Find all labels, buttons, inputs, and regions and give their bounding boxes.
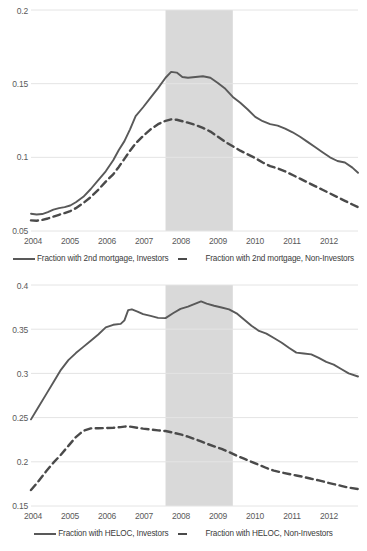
y-tick-label: 0.4 <box>2 281 28 291</box>
x-tick-label: 2008 <box>164 511 198 521</box>
y-tick-label: 0.25 <box>2 413 28 423</box>
x-tick-label: 2011 <box>275 236 309 246</box>
legend-label: Fraction with HELOC, Non-Investors <box>205 529 332 538</box>
dashed-line-swatch-icon <box>178 533 187 535</box>
x-tick-label: 2005 <box>53 511 87 521</box>
y-tick-label: 0.15 <box>2 79 28 89</box>
dashed-line-swatch-icon <box>178 258 187 260</box>
x-tick-label: 2012 <box>312 511 346 521</box>
x-tick-label: 2009 <box>201 236 235 246</box>
y-tick-label: 0.35 <box>2 325 28 335</box>
y-tick-label: 0.2 <box>2 6 28 16</box>
y-tick-label: 0.2 <box>2 457 28 467</box>
x-tick-label: 2007 <box>127 236 161 246</box>
y-tick-label: 0.1 <box>2 152 28 162</box>
legend-item-investors: Fraction with HELOC, Investors <box>34 529 168 538</box>
x-tick-label: 2004 <box>16 511 50 521</box>
x-tick-label: 2012 <box>312 236 346 246</box>
y-tick-label: 0.05 <box>2 226 28 236</box>
x-tick-label: 2004 <box>16 236 50 246</box>
x-tick-label: 2011 <box>275 511 309 521</box>
chart-panel-second-mortgage: 0.2 0.15 0.1 0.05 2004 2005 2006 2007 20… <box>0 0 367 275</box>
solid-line-swatch-icon <box>13 258 35 260</box>
x-tick-label: 2006 <box>90 236 124 246</box>
solid-line-swatch-icon <box>34 533 56 535</box>
x-tick-label: 2009 <box>201 511 235 521</box>
legend-label: Fraction with HELOC, Investors <box>58 529 168 538</box>
x-tick-label: 2005 <box>53 236 87 246</box>
legend-item-non-investors: Fraction with 2nd mortgage, Non-Investor… <box>168 254 354 263</box>
legend-second-mortgage: Fraction with 2nd mortgage, Investors Fr… <box>0 254 367 263</box>
x-tick-label: 2006 <box>90 511 124 521</box>
legend-label: Fraction with 2nd mortgage, Non-Investor… <box>205 254 354 263</box>
legend-label: Fraction with 2nd mortgage, Investors <box>37 254 168 263</box>
x-tick-label: 2008 <box>164 236 198 246</box>
y-tick-label: 0.3 <box>2 369 28 379</box>
x-tick-label: 2007 <box>127 511 161 521</box>
legend-item-non-investors: Fraction with HELOC, Non-Investors <box>168 529 332 538</box>
heloc-plot-area <box>0 275 367 523</box>
x-tick-label: 2010 <box>238 236 272 246</box>
y-tick-label: 0.15 <box>2 501 28 511</box>
x-tick-label: 2010 <box>238 511 272 521</box>
second-mortgage-plot-area <box>0 0 367 248</box>
chart-panel-heloc: 0.4 0.35 0.3 0.25 0.2 0.15 2004 2005 200… <box>0 275 367 551</box>
legend-item-investors: Fraction with 2nd mortgage, Investors <box>13 254 168 263</box>
legend-heloc: Fraction with HELOC, Investors Fraction … <box>0 529 367 538</box>
